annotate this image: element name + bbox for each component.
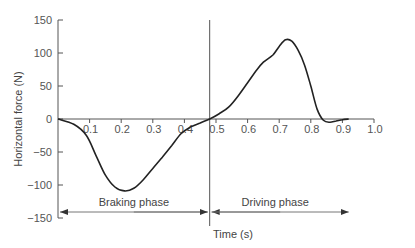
x-tick-label: 0.2	[115, 123, 130, 135]
driving-phase-label: Driving phase	[242, 196, 309, 208]
force-curve	[58, 39, 349, 191]
y-tick-label: −150	[27, 212, 52, 224]
x-tick-label: 0.9	[336, 123, 351, 135]
y-axis: 150100500−50−100−150	[27, 14, 63, 224]
y-tick-label: −50	[33, 146, 52, 158]
x-tick-label: 1.0	[367, 123, 382, 135]
y-tick-label: 100	[34, 47, 52, 59]
x-tick-label: 0.7	[273, 123, 288, 135]
x-tick-label: 0.4	[178, 123, 193, 135]
x-tick-label: 0.8	[304, 123, 319, 135]
x-tick-label: 0.3	[146, 123, 161, 135]
y-tick-label: 50	[40, 80, 52, 92]
x-tick-label: 0.5	[209, 123, 224, 135]
phase-annotations: Braking phaseDriving phase	[60, 196, 349, 212]
y-tick-label: −100	[27, 179, 52, 191]
y-axis-title: Horizontal force (N)	[12, 71, 24, 166]
horizontal-force-chart: 150100500−50−100−150 0.10.20.30.40.50.60…	[0, 0, 415, 248]
x-axis-title: Time (s)	[213, 228, 253, 240]
y-tick-label: 150	[34, 14, 52, 26]
y-tick-label: 0	[46, 113, 52, 125]
braking-phase-label: Braking phase	[99, 196, 169, 208]
x-tick-label: 0.6	[241, 123, 256, 135]
